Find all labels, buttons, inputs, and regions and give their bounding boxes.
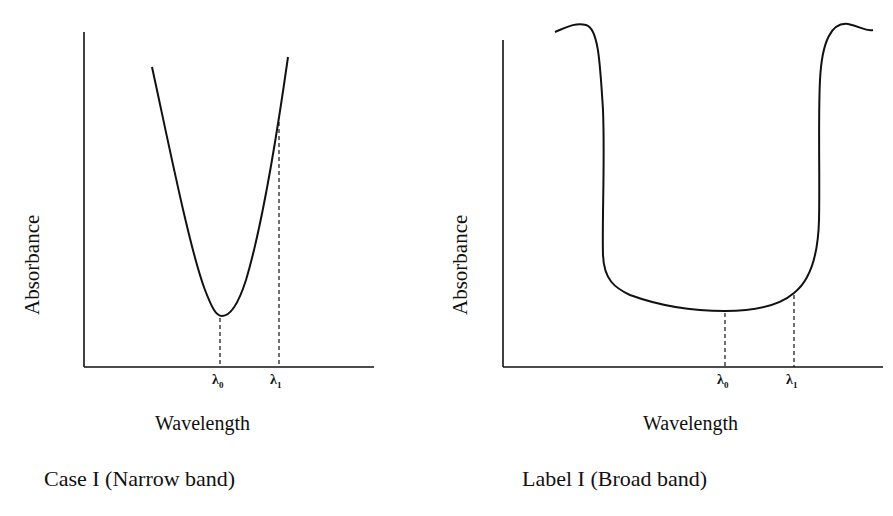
- broad-band-plot: [0, 0, 893, 400]
- chart-caption: Case I (Narrow band): [44, 466, 235, 492]
- tick-lambda0: λ0: [717, 372, 728, 390]
- y-axis-label: Absorbance: [448, 215, 473, 315]
- chart-caption: Label I (Broad band): [522, 466, 707, 492]
- x-axis-label: Wavelength: [643, 412, 738, 435]
- broad-band-curve: [555, 24, 873, 311]
- x-axis-label: Wavelength: [155, 412, 250, 435]
- tick-lambda1: λ1: [786, 372, 797, 390]
